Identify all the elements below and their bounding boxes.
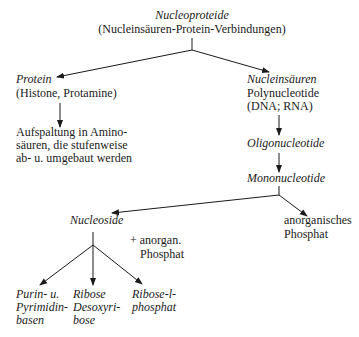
node-inorganic-phosphate-line-2: Phosphat xyxy=(284,228,328,241)
node-nucleinsaeuren: Nucleinsäuren xyxy=(247,73,317,86)
node-bases-line-3: basen xyxy=(16,314,44,327)
arrow-to-protein xyxy=(57,50,192,77)
node-mononucleotide: Mononucleotide xyxy=(247,172,325,185)
node-nucleoside: Nucleoside xyxy=(70,214,123,227)
arrow-to-nucleic-acids xyxy=(192,50,269,72)
node-nucleoproteide: Nucleoproteide xyxy=(155,9,229,22)
node-protein: Protein xyxy=(16,73,52,86)
node-dna-rna: (DNA; RNA) xyxy=(247,100,313,113)
node-sugars-line-3: bose xyxy=(73,314,95,327)
arrow-to-bases xyxy=(40,245,93,285)
node-protein-subtitle: (Histone, Protamine) xyxy=(16,87,117,100)
node-oligonucleotide: Oligonucleotide xyxy=(247,137,324,150)
reagent-line-2: Phosphat xyxy=(140,248,184,261)
node-inorganic-phosphate-line-1: anorganisches xyxy=(284,214,352,227)
amino-line-3: ab- u. umgebaut werden xyxy=(16,152,132,165)
reagent-line-1: + anorgan. xyxy=(130,234,181,247)
arrow-to-ribose-phosphate xyxy=(93,245,142,284)
node-ribose-phosphate-line-2: phosphat xyxy=(132,301,176,314)
node-nucleoproteide-subtitle: (Nucleinsäuren-Protein-Verbindungen) xyxy=(98,23,285,36)
arrow-to-nucleoside xyxy=(112,195,279,213)
